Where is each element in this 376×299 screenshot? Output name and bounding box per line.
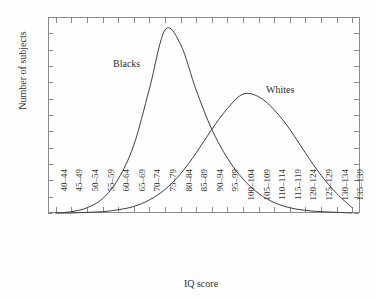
y-axis-tick	[48, 164, 53, 165]
x-axis-tick	[118, 207, 119, 213]
right-axis-tick	[354, 99, 359, 100]
right-axis-tick	[354, 164, 359, 165]
x-axis-tick-label: 95–99	[231, 169, 240, 215]
x-axis-tick-label: 55–59	[107, 169, 116, 215]
x-axis-tick-label: 70–74	[153, 169, 162, 215]
top-axis-tick	[181, 18, 182, 23]
x-axis-tick	[196, 207, 197, 213]
top-axis-tick	[165, 18, 166, 23]
right-axis-tick	[354, 148, 359, 149]
y-axis-tick	[48, 33, 53, 34]
top-axis-tick	[134, 18, 135, 23]
x-axis-tick-label: 90–94	[216, 169, 225, 215]
right-axis-tick	[354, 66, 359, 67]
right-axis-tick	[354, 131, 359, 132]
top-axis-tick	[103, 18, 104, 23]
y-axis-tick	[48, 148, 53, 149]
y-axis-tick	[48, 131, 53, 132]
top-axis-tick	[87, 18, 88, 23]
top-axis-tick	[290, 18, 291, 23]
y-axis-tick	[48, 17, 53, 18]
top-axis-tick	[321, 18, 322, 23]
right-axis-tick	[354, 17, 359, 18]
x-axis-tick-label: 85–89	[200, 169, 209, 215]
y-axis-title: Number of subjects	[17, 0, 28, 151]
x-axis-tick	[227, 207, 228, 213]
top-axis-tick	[227, 18, 228, 23]
right-axis-tick	[354, 82, 359, 83]
x-axis-tick-label: 120–124	[309, 169, 318, 215]
top-axis-tick	[274, 18, 275, 23]
x-axis-tick-label: 125–129	[325, 169, 334, 215]
x-axis-tick	[165, 207, 166, 213]
x-axis-tick-label: 50–54	[91, 169, 100, 215]
top-axis-tick	[56, 18, 57, 23]
top-axis-tick	[118, 18, 119, 23]
x-axis-tick-label: 135–139	[356, 169, 365, 215]
x-axis-tick-label: 80–84	[185, 169, 194, 215]
x-axis-tick-label: 130–134	[341, 169, 350, 215]
y-axis-tick	[48, 213, 53, 214]
top-axis-tick	[196, 18, 197, 23]
x-axis-tick	[305, 207, 306, 213]
x-axis-tick-label: 45–49	[75, 169, 84, 215]
x-axis-tick-label: 100–104	[247, 169, 256, 215]
top-axis-tick	[305, 18, 306, 23]
series-label-whites-text: Whites	[266, 84, 294, 95]
right-axis-tick	[354, 115, 359, 116]
y-axis-tick	[48, 180, 53, 181]
y-axis-tick	[48, 197, 53, 198]
x-axis-tick	[56, 207, 57, 213]
x-axis-tick	[243, 207, 244, 213]
series-label-whites: Whites	[266, 84, 294, 95]
top-axis-tick	[259, 18, 260, 23]
series-label-blacks: Blacks	[113, 58, 140, 69]
x-axis-tick-label: 40–44	[60, 169, 69, 215]
x-axis-title-text: IQ score	[158, 278, 218, 289]
x-axis-tick	[149, 207, 150, 213]
x-axis-tick	[259, 207, 260, 213]
series-label-blacks-text: Blacks	[113, 58, 140, 69]
x-axis-tick	[274, 207, 275, 213]
y-axis-tick	[48, 50, 53, 51]
x-axis-tick	[87, 207, 88, 213]
top-axis-tick	[337, 18, 338, 23]
y-axis-tick	[48, 82, 53, 83]
x-axis-tick	[290, 207, 291, 213]
x-axis-tick-label: 65–69	[138, 169, 147, 215]
x-axis-tick	[212, 207, 213, 213]
x-axis-tick	[352, 207, 353, 213]
top-axis-tick	[352, 18, 353, 23]
right-axis-tick	[354, 50, 359, 51]
y-axis-tick	[48, 115, 53, 116]
x-axis-tick	[337, 207, 338, 213]
x-axis-tick-label: 115–119	[294, 169, 303, 215]
top-axis-tick	[149, 18, 150, 23]
y-axis-tick	[48, 99, 53, 100]
right-axis-tick	[354, 33, 359, 34]
x-axis-tick	[103, 207, 104, 213]
x-axis-tick	[134, 207, 135, 213]
y-axis-tick	[48, 66, 53, 67]
x-axis-tick-label: 110–114	[278, 169, 287, 215]
x-axis-tick	[321, 207, 322, 213]
top-axis-tick	[243, 18, 244, 23]
x-axis-title: IQ score	[0, 278, 376, 289]
top-axis-tick	[71, 18, 72, 23]
iq-distribution-chart: Number of subjects IQ score 025507510012…	[0, 0, 376, 299]
x-axis-tick-label: 60–64	[122, 169, 131, 215]
x-axis-tick-label: 75–79	[169, 169, 178, 215]
x-axis-tick-label: 105–109	[263, 169, 272, 215]
x-axis-tick	[181, 207, 182, 213]
x-axis-tick	[71, 207, 72, 213]
top-axis-tick	[212, 18, 213, 23]
y-axis-title-text: Number of subjects	[17, 31, 28, 109]
